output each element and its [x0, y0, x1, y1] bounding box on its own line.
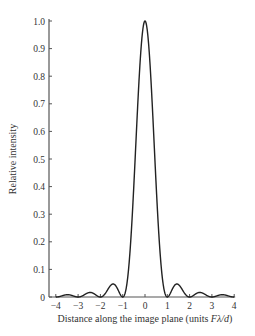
- y-axis-label: Relative intensity: [7, 124, 18, 194]
- x-tick-label: −3: [73, 301, 83, 311]
- x-tick-label: −1: [118, 301, 128, 311]
- x-tick-label: −2: [95, 301, 105, 311]
- y-tick-label: 0.4: [33, 182, 45, 192]
- y-tick-label: 0.5: [33, 155, 45, 165]
- x-tick-label: 3: [210, 301, 215, 311]
- x-tick-label: −4: [51, 301, 61, 311]
- y-axis: 00.10.20.30.40.50.60.70.80.91.0: [33, 17, 52, 303]
- y-tick-label: 0.8: [33, 72, 45, 82]
- x-tick-label: 2: [187, 301, 192, 311]
- y-tick-label: 1.0: [33, 17, 45, 27]
- y-tick-label: 0.6: [33, 127, 45, 137]
- y-tick-label: 0.3: [33, 210, 45, 220]
- x-tick-label: 0: [143, 301, 148, 311]
- y-tick-label: 0.1: [33, 265, 45, 275]
- x-tick-label: 4: [232, 301, 237, 311]
- y-tick-label: 0.2: [33, 237, 45, 247]
- x-axis-label: Distance along the image plane (units Fλ…: [58, 313, 233, 325]
- y-tick-label: 0.9: [33, 44, 45, 54]
- y-tick-label: 0: [40, 293, 45, 303]
- x-tick-label: 1: [165, 301, 170, 311]
- intensity-curve: [56, 21, 234, 297]
- y-tick-label: 0.7: [33, 99, 45, 109]
- chart: 00.10.20.30.40.50.60.70.80.91.0 −4−3−2−1…: [0, 0, 255, 336]
